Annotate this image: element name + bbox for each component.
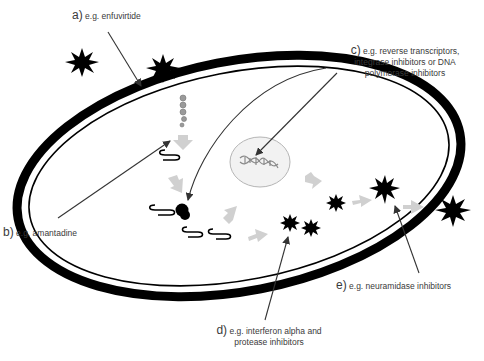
label-c-letter: c) — [351, 43, 361, 57]
label-c: c) e.g. reverse transcriptors, integrase… — [330, 45, 480, 79]
mrna-strands — [150, 150, 231, 239]
arrow-b — [58, 141, 170, 218]
arrow-c2 — [256, 73, 337, 155]
label-d-line1: e.g. interferon alpha and — [229, 326, 321, 336]
arrow-d — [265, 237, 288, 320]
label-c-line3: polymerase inhibitors — [330, 68, 480, 79]
label-e-letter: e) — [336, 278, 347, 292]
label-a: a) e.g. enfuvirtide — [72, 10, 141, 22]
label-c-line2: integrase inhibitors or DNA — [330, 57, 480, 68]
nucleus — [230, 137, 290, 187]
label-c-line1: e.g. reverse transcriptors, — [363, 46, 459, 56]
label-e: e) e.g. neuramidase inhibitors — [336, 280, 451, 292]
label-e-text: e.g. neuramidase inhibitors — [349, 281, 451, 291]
label-a-letter: a) — [72, 8, 83, 22]
new-virion-3 — [326, 194, 346, 212]
new-virion-1 — [280, 214, 300, 232]
new-virion-2 — [301, 219, 321, 237]
arrow-a — [108, 32, 141, 86]
label-d-line2: protease inhibitors — [204, 337, 334, 348]
ribosome — [176, 204, 191, 221]
label-d-letter: d) — [216, 323, 227, 337]
label-b-letter: b) — [3, 225, 14, 239]
viral-genome-strand — [180, 95, 187, 127]
label-d: d) e.g. interferon alpha and protease in… — [204, 325, 334, 348]
label-b-text: e.g. amantadine — [16, 228, 77, 238]
label-a-text: e.g. enfuvirtide — [85, 11, 141, 21]
virus-free-outside-left — [65, 48, 99, 77]
label-b: b) e.g. amantadine — [3, 227, 77, 239]
virus-budding — [369, 175, 400, 204]
